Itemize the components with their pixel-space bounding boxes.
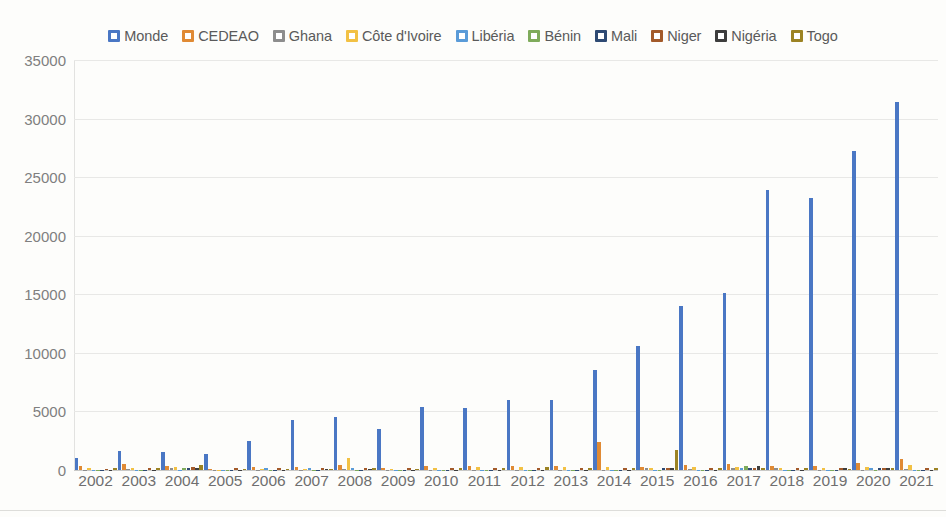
bar[interactable]: [908, 465, 912, 470]
bar[interactable]: [636, 346, 640, 470]
bar[interactable]: [381, 468, 385, 470]
bar[interactable]: [891, 468, 895, 470]
bar[interactable]: [511, 466, 515, 470]
legend-item[interactable]: Niger: [651, 28, 701, 44]
bar[interactable]: [199, 465, 203, 470]
bar[interactable]: [796, 468, 800, 470]
bar[interactable]: [852, 151, 856, 470]
bar[interactable]: [597, 442, 601, 470]
bar[interactable]: [126, 469, 130, 470]
bar[interactable]: [368, 469, 372, 470]
bar[interactable]: [450, 468, 454, 470]
legend-item[interactable]: Bénin: [528, 28, 581, 44]
bar[interactable]: [377, 429, 381, 470]
bar[interactable]: [390, 469, 394, 470]
bar[interactable]: [688, 469, 692, 470]
bar[interactable]: [303, 469, 307, 470]
bar[interactable]: [580, 468, 584, 470]
bar[interactable]: [277, 468, 281, 470]
bar[interactable]: [925, 468, 929, 470]
bar[interactable]: [321, 468, 325, 470]
bar[interactable]: [662, 468, 666, 470]
bar[interactable]: [554, 466, 558, 470]
bar[interactable]: [75, 458, 79, 470]
bar[interactable]: [347, 458, 351, 470]
bar[interactable]: [588, 468, 592, 470]
bar[interactable]: [182, 468, 186, 470]
bar[interactable]: [735, 467, 739, 470]
bar[interactable]: [666, 468, 670, 470]
bar[interactable]: [740, 468, 744, 470]
bar[interactable]: [407, 468, 411, 470]
bar[interactable]: [420, 407, 424, 470]
bar[interactable]: [684, 465, 688, 470]
bar[interactable]: [502, 468, 506, 470]
bar[interactable]: [170, 468, 174, 470]
bar[interactable]: [295, 467, 299, 470]
bar[interactable]: [291, 420, 295, 470]
legend-item[interactable]: Libéria: [456, 28, 515, 44]
bar[interactable]: [308, 468, 312, 470]
bar[interactable]: [606, 467, 610, 471]
bar[interactable]: [87, 468, 91, 470]
legend-item[interactable]: Togo: [791, 28, 838, 44]
bar[interactable]: [731, 468, 735, 470]
bar[interactable]: [342, 469, 346, 470]
bar[interactable]: [260, 469, 264, 470]
bar[interactable]: [372, 468, 376, 470]
bar[interactable]: [645, 468, 649, 470]
bar[interactable]: [243, 469, 247, 470]
bar[interactable]: [234, 468, 238, 470]
bar[interactable]: [545, 467, 549, 470]
bar[interactable]: [493, 468, 497, 470]
bar[interactable]: [156, 468, 160, 470]
bar[interactable]: [623, 468, 627, 470]
bar[interactable]: [334, 417, 338, 470]
bar[interactable]: [325, 469, 329, 470]
bar[interactable]: [463, 408, 467, 470]
bar[interactable]: [886, 468, 890, 470]
bar[interactable]: [865, 467, 869, 470]
bar[interactable]: [839, 468, 843, 470]
bar[interactable]: [208, 469, 212, 470]
bar[interactable]: [856, 463, 860, 470]
bar[interactable]: [934, 468, 938, 470]
bar[interactable]: [804, 468, 808, 470]
bar[interactable]: [748, 468, 752, 470]
legend-item[interactable]: CEDEAO: [182, 28, 259, 44]
bar[interactable]: [770, 466, 774, 470]
bar[interactable]: [79, 466, 83, 470]
bar[interactable]: [105, 469, 109, 470]
bar[interactable]: [723, 293, 727, 470]
bar[interactable]: [161, 452, 165, 470]
bar[interactable]: [338, 465, 342, 470]
bar[interactable]: [900, 459, 904, 470]
bar[interactable]: [640, 467, 644, 471]
bar[interactable]: [649, 468, 653, 470]
bar[interactable]: [113, 468, 117, 470]
bar[interactable]: [632, 468, 636, 470]
bar[interactable]: [843, 468, 847, 470]
bar[interactable]: [813, 466, 817, 470]
bar[interactable]: [848, 469, 852, 470]
bar[interactable]: [252, 467, 256, 470]
bar[interactable]: [904, 469, 908, 470]
bar[interactable]: [122, 464, 126, 470]
bar[interactable]: [809, 198, 813, 470]
bar[interactable]: [757, 466, 761, 470]
bar[interactable]: [709, 468, 713, 470]
bar[interactable]: [593, 370, 597, 470]
bar[interactable]: [761, 468, 765, 470]
bar[interactable]: [537, 468, 541, 470]
bar[interactable]: [563, 467, 567, 470]
bar[interactable]: [718, 468, 722, 470]
bar[interactable]: [415, 469, 419, 470]
bar[interactable]: [766, 190, 770, 470]
legend-item[interactable]: Ghana: [273, 28, 332, 44]
bar[interactable]: [727, 464, 731, 470]
bar[interactable]: [869, 468, 873, 470]
bar[interactable]: [424, 466, 428, 470]
bar[interactable]: [118, 451, 122, 470]
bar[interactable]: [187, 468, 191, 470]
bar[interactable]: [204, 454, 208, 470]
